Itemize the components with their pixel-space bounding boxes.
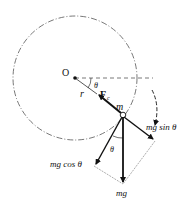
- radial-component-arrow: [96, 117, 122, 164]
- angle-arc-top: [88, 78, 91, 88]
- component-guide-line: [94, 166, 123, 184]
- mg-sin-label: mg sin θ: [146, 122, 177, 132]
- angle-label-bottom: θ: [110, 145, 114, 154]
- angle-arc-bottom: [113, 136, 123, 138]
- angle-label-top: θ: [94, 81, 98, 90]
- circular-motion-diagram: O r θ F c m mg sin θ mg cos θ θ mg: [0, 0, 188, 211]
- component-guide-line: [123, 141, 155, 184]
- mg-cos-label: mg cos θ: [50, 159, 82, 169]
- centripetal-force-subscript: c: [107, 95, 110, 101]
- mass-label: m: [116, 101, 123, 112]
- rotation-direction-arrow: [152, 90, 157, 125]
- mg-label: mg: [116, 188, 127, 198]
- radius-label: r: [80, 88, 84, 99]
- centripetal-force-label: F: [100, 89, 106, 100]
- center-label: O: [62, 67, 69, 78]
